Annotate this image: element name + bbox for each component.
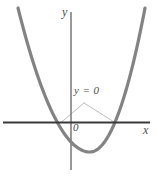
leader-line-left [61,103,84,123]
leader-line-right [84,103,115,123]
callout-leader-lines [61,103,115,123]
origin-label: 0 [73,122,79,133]
parabola-figure: y x 0 y = 0 [0,0,158,179]
y-axis-label: y [62,6,67,18]
y-equals-zero-label: y = 0 [74,85,99,96]
x-axis-label: x [143,124,148,136]
parabola-curve [18,8,145,152]
